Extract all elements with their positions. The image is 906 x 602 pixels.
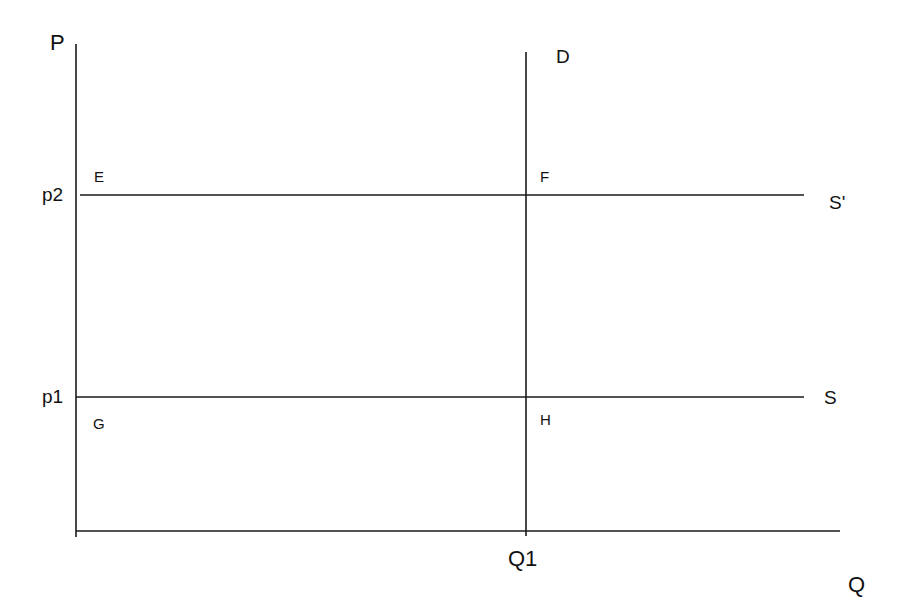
- supply-curve-label: S: [824, 387, 837, 408]
- price-level-p2-label: p2: [42, 184, 63, 205]
- supply-shifted-curve-label: S': [829, 192, 845, 213]
- point-g-label: G: [93, 415, 105, 432]
- quantity-axis-label: Q: [848, 572, 865, 597]
- supply-demand-diagram: P Q p2 p1 Q1 D S' S E F G H: [0, 0, 906, 602]
- point-h-label: H: [540, 411, 551, 428]
- point-f-label: F: [540, 168, 549, 185]
- point-e-label: E: [94, 168, 104, 185]
- demand-curve-label: D: [556, 46, 570, 67]
- price-level-p1-label: p1: [42, 386, 63, 407]
- quantity-level-q1-label: Q1: [508, 546, 537, 571]
- price-axis-label: P: [50, 30, 65, 55]
